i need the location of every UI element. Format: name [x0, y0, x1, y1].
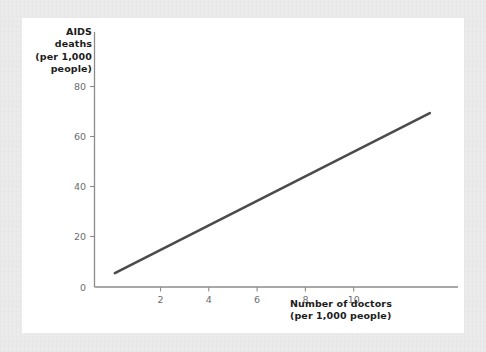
- x-axis-title-line-2: (per 1,000 people): [290, 310, 460, 322]
- y-tick-label-60: 60: [74, 131, 86, 142]
- y-axis-title-line-3: (per 1,000: [0, 51, 92, 63]
- y-tick-label-0: 0: [80, 282, 86, 293]
- x-tick-label-2: 2: [157, 294, 163, 305]
- plot-area: 80 60 40 20 0 2 4 6 8 10: [22, 18, 464, 333]
- y-axis-title: AIDS deaths (per 1,000 people): [0, 26, 92, 76]
- y-axis-ticks: [90, 87, 95, 237]
- x-axis-title-line-1: Number of doctors: [290, 298, 460, 310]
- x-tick-label-4: 4: [206, 294, 212, 305]
- y-tick-label-20: 20: [74, 231, 86, 242]
- chart-card: 80 60 40 20 0 2 4 6 8 10: [22, 18, 464, 333]
- y-axis-title-line-1: AIDS: [0, 26, 92, 38]
- y-axis-title-line-4: people): [0, 63, 92, 75]
- y-tick-label-40: 40: [74, 181, 86, 192]
- x-axis-ticks: [161, 287, 354, 292]
- data-series-line: [115, 113, 430, 273]
- y-axis-title-line-2: deaths: [0, 38, 92, 50]
- figure-root: 80 60 40 20 0 2 4 6 8 10: [0, 0, 486, 352]
- x-axis-title: Number of doctors (per 1,000 people): [290, 298, 460, 323]
- y-tick-label-80: 80: [74, 81, 86, 92]
- x-tick-label-6: 6: [254, 294, 260, 305]
